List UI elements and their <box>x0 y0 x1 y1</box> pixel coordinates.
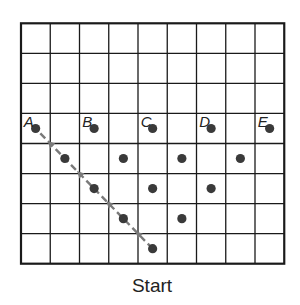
point-labels: ABCDE <box>23 113 269 130</box>
point-label-a: A <box>23 113 34 130</box>
point-dot <box>148 184 157 193</box>
grid-diagram: ABCDE Start <box>0 0 300 305</box>
point-dot <box>177 214 186 223</box>
point-dot <box>207 184 216 193</box>
point-label-b: B <box>82 113 92 130</box>
point-dot <box>119 214 128 223</box>
point-dot <box>148 244 157 253</box>
point-label-e: E <box>258 113 269 130</box>
arrowhead-icon <box>48 141 55 148</box>
point-dot <box>177 154 186 163</box>
point-label-c: C <box>141 113 152 130</box>
point-dot <box>90 184 99 193</box>
point-label-d: D <box>199 113 210 130</box>
grid-lines <box>21 23 284 263</box>
point-dot <box>236 154 245 163</box>
point-dot <box>60 154 69 163</box>
point-dot <box>119 154 128 163</box>
start-caption: Start <box>132 275 173 296</box>
